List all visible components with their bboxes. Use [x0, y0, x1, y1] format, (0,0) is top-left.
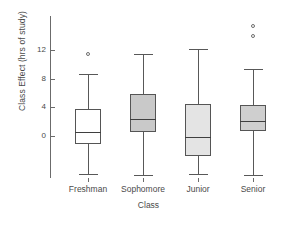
y-tick-8: [50, 79, 55, 80]
whisker-cap-lower-sophomore: [134, 175, 153, 176]
whisker-cap-upper-sophomore: [134, 54, 153, 55]
whisker-lower-freshman: [88, 144, 89, 174]
whisker-cap-lower-senior: [244, 175, 263, 176]
x-tick-label-senior: Senior: [223, 184, 283, 194]
median-line-sophomore: [130, 119, 156, 120]
x-tick-sophomore: [143, 178, 144, 182]
y-tick-label-8: 8: [30, 75, 46, 83]
whisker-cap-upper-freshman: [79, 74, 98, 75]
median-line-freshman: [75, 132, 101, 133]
median-line-junior: [185, 137, 211, 138]
y-tick-label-text: 0: [32, 132, 46, 140]
y-tick-label-12: 12: [30, 46, 46, 54]
whisker-cap-upper-junior: [189, 49, 208, 50]
y-tick-label-4: 4: [30, 103, 46, 111]
whisker-lower-senior: [253, 131, 254, 175]
x-tick-label-sophomore: Sophomore: [113, 184, 173, 194]
x-tick-junior: [198, 178, 199, 182]
whisker-cap-lower-junior: [189, 174, 208, 175]
whisker-lower-sophomore: [143, 132, 144, 174]
x-tick-label-junior: Junior: [168, 184, 228, 194]
median-line-senior: [240, 121, 266, 122]
outlier-freshman-1: [86, 52, 90, 56]
box-rect-senior: [240, 105, 266, 131]
y-tick-label-text: 8: [32, 75, 46, 83]
whisker-upper-senior: [253, 69, 254, 106]
y-axis-title: Class Effect (hrs of study): [17, 1, 27, 121]
box-rect-freshman: [75, 109, 101, 144]
y-tick-12: [50, 50, 55, 51]
y-tick-label-text: 4: [32, 103, 46, 111]
x-axis-title: Class: [0, 200, 297, 210]
whisker-upper-sophomore: [143, 54, 144, 94]
box-rect-sophomore: [130, 94, 156, 132]
y-tick-label-text: 12: [32, 46, 46, 54]
whisker-cap-lower-freshman: [79, 174, 98, 175]
outlier-senior-2: [251, 34, 255, 38]
y-tick-0: [50, 136, 55, 137]
x-tick-freshman: [88, 178, 89, 182]
whisker-upper-freshman: [88, 74, 89, 108]
x-tick-label-freshman: Freshman: [58, 184, 118, 194]
whisker-cap-upper-senior: [244, 69, 263, 70]
whisker-upper-junior: [198, 49, 199, 103]
box-rect-junior: [185, 104, 211, 156]
y-tick-4: [50, 107, 55, 108]
whisker-lower-junior: [198, 156, 199, 174]
outlier-senior-1: [251, 24, 255, 28]
boxplot-figure: Class Effect (hrs of study) 04812 Freshm…: [0, 0, 297, 226]
x-tick-senior: [253, 178, 254, 182]
y-tick-label-0: 0: [30, 132, 46, 140]
y-axis-line: [50, 16, 51, 178]
